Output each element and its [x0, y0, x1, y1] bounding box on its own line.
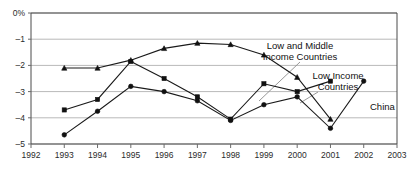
x-tick-label: 2003: [388, 150, 407, 160]
y-tick-label: –2: [16, 60, 26, 70]
data-point-marker: [228, 118, 233, 123]
x-tick-label: 2002: [354, 150, 373, 160]
data-point-marker: [129, 84, 134, 89]
annotation-china: China: [370, 101, 396, 112]
data-point-marker: [62, 133, 67, 138]
data-point-marker: [295, 90, 299, 94]
data-point-marker: [262, 82, 266, 86]
data-point-marker: [328, 126, 333, 131]
data-point-marker: [62, 108, 66, 112]
y-tick-label: –4: [16, 113, 26, 123]
x-tick-label: 1992: [22, 150, 41, 160]
data-point-marker: [162, 89, 167, 94]
series-low-income-countries: [62, 59, 332, 121]
y-axis-tick-labels: 0%–1–2–3–4–5: [13, 8, 26, 149]
chart-figure: 0%–1–2–3–4–5 199219931994199519961997199…: [0, 0, 410, 179]
x-tick-label: 2000: [288, 150, 307, 160]
y-tick-label: 0%: [13, 8, 26, 18]
y-tick-label: –5: [16, 139, 26, 149]
series-line: [64, 61, 330, 119]
x-tick-label: 1994: [88, 150, 107, 160]
data-point-marker: [162, 76, 166, 80]
annotation-leader-lines: [259, 62, 318, 103]
x-tick-label: 1996: [155, 150, 174, 160]
data-point-marker: [295, 95, 300, 100]
data-point-marker: [262, 102, 267, 107]
y-tick-label: –1: [16, 34, 26, 44]
annotation-low-and-middle-income-countries: Low and MiddleIncome Countries: [263, 40, 338, 62]
data-point-marker: [129, 59, 133, 63]
y-tick-label: –3: [16, 87, 26, 97]
x-tick-label: 1995: [121, 150, 140, 160]
x-tick-label: 1999: [254, 150, 273, 160]
data-point-marker: [95, 97, 99, 101]
series-annotations: Low and MiddleIncome CountriesLow Income…: [263, 40, 396, 112]
line-chart-canvas: 0%–1–2–3–4–5 199219931994199519961997199…: [0, 0, 410, 179]
annotation-low-income-countries: Low IncomeCountries: [312, 70, 363, 92]
x-tick-label: 1993: [55, 150, 74, 160]
data-point-marker: [95, 109, 100, 114]
x-tick-label: 1997: [188, 150, 207, 160]
x-tick-label: 1998: [221, 150, 240, 160]
data-point-marker: [295, 75, 300, 80]
data-point-marker: [195, 98, 200, 103]
x-axis-tick-labels: 1992199319941995199619971998199920002001…: [22, 150, 407, 160]
x-tick-label: 2001: [321, 150, 340, 160]
